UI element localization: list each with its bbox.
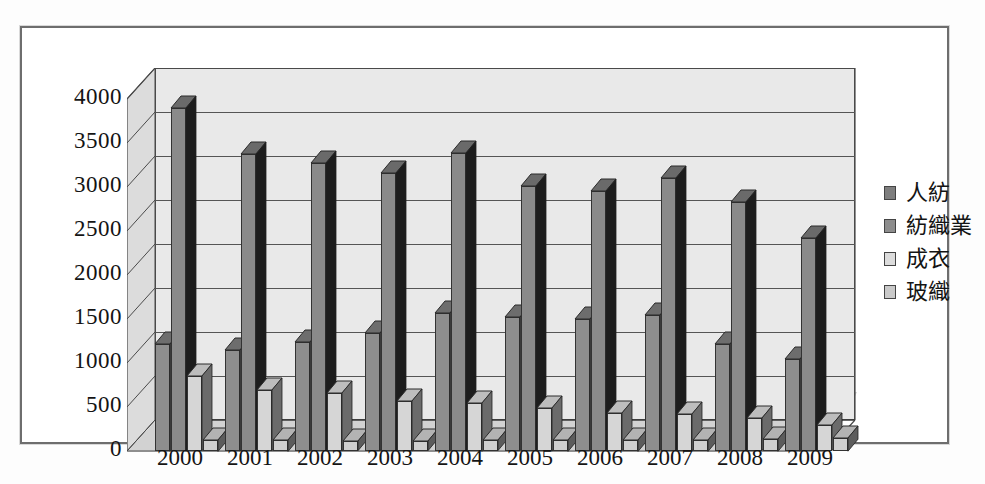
legend-item-label: 玻織 — [906, 281, 950, 303]
bar-2002-series-2 — [327, 393, 342, 451]
bar-face — [435, 313, 450, 451]
bar-face — [521, 186, 536, 451]
bar-face — [661, 178, 676, 451]
y-axis-tick-label: 4000 — [30, 85, 122, 108]
bar-face — [311, 163, 326, 451]
bar-2003-series-0 — [365, 333, 380, 451]
bar-2004-series-2 — [467, 403, 482, 451]
bar-2003-series-1 — [381, 173, 396, 451]
bar-2002-series-0 — [295, 342, 310, 451]
bar-2000-series-1 — [171, 108, 186, 451]
bar-face — [241, 154, 256, 451]
bar-2003-series-2 — [397, 401, 412, 451]
x-axis-tick-label: 2007 — [635, 446, 705, 469]
y-axis-tick-label: 3500 — [30, 129, 122, 152]
bar-2005-series-0 — [505, 317, 520, 451]
legend-item-0[interactable]: 人紡 — [884, 176, 985, 209]
legend-swatch-icon — [884, 219, 896, 233]
bar-2007-series-1 — [661, 178, 676, 451]
legend-item-1[interactable]: 紡織業 — [884, 209, 985, 242]
legend-item-label: 成衣 — [906, 248, 950, 270]
bar-face — [155, 344, 170, 451]
bar-face — [187, 376, 202, 451]
bar-face — [397, 401, 412, 451]
bar-2000-series-2 — [187, 376, 202, 451]
bar-face — [785, 359, 800, 451]
legend: 人紡紡織業成衣玻織 — [884, 176, 985, 308]
x-axis-tick-label: 2009 — [775, 446, 845, 469]
bar-2008-series-1 — [731, 202, 746, 451]
bar-2001-series-2 — [257, 390, 272, 451]
y-axis-tick-label: 0 — [30, 437, 122, 460]
legend-item-2[interactable]: 成衣 — [884, 242, 985, 275]
x-axis-tick-label: 2004 — [425, 446, 495, 469]
bar-2000-series-0 — [155, 344, 170, 451]
bar-2009-series-0 — [785, 359, 800, 451]
bar-face — [171, 108, 186, 451]
bar-face — [451, 153, 466, 451]
x-axis-tick-label: 2008 — [705, 446, 775, 469]
legend-item-3[interactable]: 玻織 — [884, 275, 985, 308]
bar-2006-series-0 — [575, 319, 590, 451]
bar-face — [505, 317, 520, 451]
bar-2009-series-1 — [801, 238, 816, 451]
bar-face — [645, 315, 660, 451]
legend-swatch-icon — [884, 285, 896, 299]
bar-2004-series-1 — [451, 153, 466, 451]
y-axis-tick-label: 1000 — [30, 349, 122, 372]
bar-face — [257, 390, 272, 451]
bar-2006-series-1 — [591, 191, 606, 451]
bar-face — [365, 333, 380, 451]
bar-face — [295, 342, 310, 451]
y-axis-tick-label: 3000 — [30, 173, 122, 196]
legend-item-label: 人紡 — [906, 182, 950, 204]
bar-face — [591, 191, 606, 451]
y-axis: 40003500300025002000150010005000 — [22, 28, 122, 448]
bar-2007-series-0 — [645, 315, 660, 451]
chart-frame: 40003500300025002000150010005000 2000200… — [20, 26, 949, 444]
x-axis-tick-label: 2005 — [495, 446, 565, 469]
bar-2005-series-1 — [521, 186, 536, 451]
bar-face — [467, 403, 482, 451]
x-axis-tick-label: 2000 — [145, 446, 215, 469]
bar-face — [381, 173, 396, 451]
legend-item-label: 紡織業 — [906, 215, 972, 237]
gridline — [155, 112, 855, 113]
y-axis-tick-label: 2500 — [30, 217, 122, 240]
bar-2002-series-1 — [311, 163, 326, 451]
x-axis-tick-label: 2006 — [565, 446, 635, 469]
bar-face — [715, 344, 730, 451]
x-axis-tick-label: 2002 — [285, 446, 355, 469]
x-axis-tick-label: 2001 — [215, 446, 285, 469]
legend-swatch-icon — [884, 186, 896, 200]
y-axis-tick-label: 1500 — [30, 305, 122, 328]
x-axis: 2000200120022003200420052006200720082009 — [127, 446, 887, 482]
bar-2008-series-0 — [715, 344, 730, 451]
bar-face — [225, 350, 240, 451]
bar-face — [801, 238, 816, 451]
bar-face — [575, 319, 590, 451]
chart-figure: 40003500300025002000150010005000 2000200… — [0, 0, 985, 484]
y-axis-tick-label: 500 — [30, 393, 122, 416]
bar-face — [327, 393, 342, 451]
bar-2001-series-0 — [225, 350, 240, 451]
legend-swatch-icon — [884, 252, 896, 266]
bar-2004-series-0 — [435, 313, 450, 451]
x-axis-tick-label: 2003 — [355, 446, 425, 469]
bar-face — [731, 202, 746, 451]
y-axis-tick-label: 2000 — [30, 261, 122, 284]
bar-2001-series-1 — [241, 154, 256, 451]
plot-left-wall — [127, 68, 157, 451]
plot-area — [127, 68, 857, 443]
